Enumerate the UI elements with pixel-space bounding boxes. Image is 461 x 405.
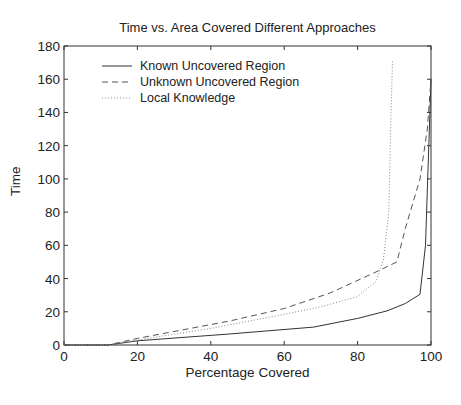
- dotted-line-icon: [100, 93, 134, 103]
- legend: Known Uncovered Region Unknown Uncovered…: [100, 58, 299, 106]
- dashed-line-icon: [100, 77, 134, 87]
- y-tick-label: 40: [45, 272, 60, 287]
- solid-line-icon: [100, 61, 134, 71]
- x-tick-label: 20: [130, 349, 145, 364]
- legend-label: Known Uncovered Region: [140, 59, 285, 73]
- legend-item-local: Local Knowledge: [100, 90, 299, 106]
- x-axis-label: Percentage Covered: [64, 365, 431, 380]
- y-axis-label: Time: [8, 167, 23, 197]
- y-tick-label: 60: [45, 238, 60, 253]
- y-tick-label: 120: [37, 139, 60, 154]
- y-tick-label: 0: [52, 338, 60, 353]
- legend-item-known: Known Uncovered Region: [100, 58, 299, 74]
- x-tick-label: 60: [277, 349, 292, 364]
- x-tick-label: 0: [60, 349, 68, 364]
- y-tick-label: 20: [45, 305, 60, 320]
- y-tick-label: 100: [37, 172, 60, 187]
- y-tick-label: 80: [45, 205, 60, 220]
- legend-label: Local Knowledge: [140, 91, 235, 105]
- legend-label: Unknown Uncovered Region: [140, 75, 299, 89]
- x-tick-label: 80: [350, 349, 365, 364]
- legend-item-unknown: Unknown Uncovered Region: [100, 74, 299, 90]
- y-tick-label: 180: [37, 39, 60, 54]
- series-line-dashed: [64, 79, 431, 345]
- series-line-solid: [64, 79, 431, 345]
- x-tick-label: 40: [203, 349, 218, 364]
- x-tick-label: 100: [420, 349, 443, 364]
- y-tick-label: 140: [37, 105, 60, 120]
- y-tick-label: 160: [37, 72, 60, 87]
